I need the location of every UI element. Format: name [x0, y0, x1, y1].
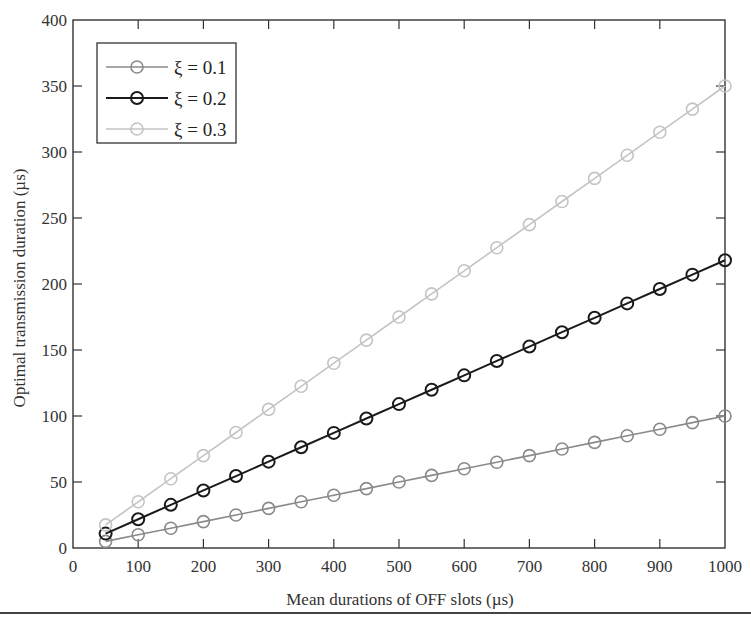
line-chart: 0100200300400500600700800900100005010015…: [0, 0, 751, 626]
x-tick-label: 500: [386, 557, 412, 576]
x-tick-label: 600: [451, 557, 477, 576]
series-2: [100, 254, 731, 539]
series-layer: [100, 80, 731, 547]
y-tick-label: 250: [42, 209, 68, 228]
x-tick-label: 700: [517, 557, 543, 576]
series-1: [100, 410, 731, 547]
y-axis-title: Optimal transmission duration (µs): [10, 169, 29, 408]
y-tick-label: 300: [42, 143, 68, 162]
y-tick-label: 150: [42, 341, 68, 360]
y-tick-label: 200: [42, 275, 68, 294]
x-tick-label: 300: [256, 557, 282, 576]
x-tick-label: 0: [69, 557, 78, 576]
x-axis-title: Mean durations of OFF slots (µs): [286, 590, 513, 609]
y-tick-label: 100: [42, 407, 68, 426]
x-tick-label: 100: [125, 557, 151, 576]
x-tick-label: 900: [647, 557, 673, 576]
y-tick-label: 0: [59, 539, 68, 558]
legend-label: ξ = 0.2: [174, 88, 226, 109]
y-tick-label: 350: [42, 77, 68, 96]
x-tick-label: 800: [582, 557, 608, 576]
y-tick-label: 400: [42, 11, 68, 30]
legend: ξ = 0.1ξ = 0.2ξ = 0.3: [97, 43, 236, 143]
series-3: [100, 80, 731, 531]
x-tick-label: 1000: [708, 557, 742, 576]
x-tick-label: 400: [321, 557, 347, 576]
legend-label: ξ = 0.1: [174, 57, 226, 78]
y-tick-label: 50: [50, 473, 67, 492]
legend-label: ξ = 0.3: [174, 119, 226, 140]
x-tick-label: 200: [191, 557, 217, 576]
page-divider: [0, 612, 751, 614]
